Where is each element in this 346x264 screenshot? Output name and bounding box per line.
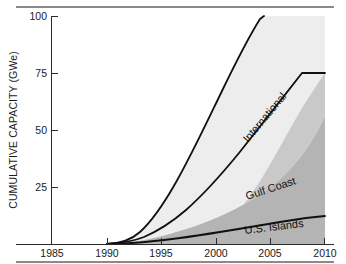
cumulative-capacity-area-chart: 100 75 50 25 CUMULATIVE CAPACITY (GWe) 1… bbox=[0, 0, 346, 264]
x-tick-label-1985: 1985 bbox=[40, 247, 64, 259]
x-tick-label-2010: 2010 bbox=[313, 247, 337, 259]
y-tick-label-100: 100 bbox=[29, 10, 47, 22]
chart-figure: 100 75 50 25 CUMULATIVE CAPACITY (GWe) 1… bbox=[0, 0, 346, 264]
x-tick-label-2005: 2005 bbox=[258, 247, 282, 259]
y-tick-label-25: 25 bbox=[35, 181, 47, 193]
y-tick-label-75: 75 bbox=[35, 67, 47, 79]
x-tick-label-1990: 1990 bbox=[95, 247, 119, 259]
x-tick-label-1995: 1995 bbox=[149, 247, 173, 259]
x-tick-label-2000: 2000 bbox=[204, 247, 228, 259]
y-tick-label-50: 50 bbox=[35, 124, 47, 136]
y-axis-title: CUMULATIVE CAPACITY (GWe) bbox=[7, 51, 19, 209]
